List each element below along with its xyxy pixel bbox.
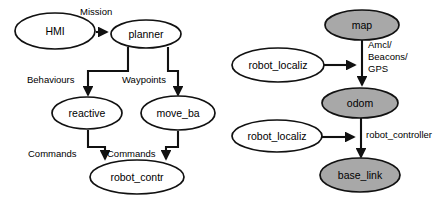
left-diagram: HMI planner reactive move_ba robot_contr… xyxy=(15,6,215,194)
node-move-ba-label: move_ba xyxy=(156,107,199,119)
node-odom[interactable]: odom xyxy=(322,88,398,118)
edge-label-amcl-beacons-gps: Amcl/ Beacons/ GPS xyxy=(368,39,408,74)
edge-label-robot-controller: robot_controller xyxy=(366,129,432,140)
edge-planner-to-reactive xyxy=(88,47,128,95)
node-planner-label: planner xyxy=(128,28,164,40)
left-diagram-edges xyxy=(88,32,178,159)
node-reactive-label: reactive xyxy=(69,107,106,119)
node-base-link[interactable]: base_link xyxy=(320,158,400,192)
node-hmi[interactable]: HMI xyxy=(15,13,95,49)
edge-label-waypoints: Waypoints xyxy=(122,74,166,85)
node-robot-contr[interactable]: robot_contr xyxy=(90,160,184,194)
node-planner[interactable]: planner xyxy=(111,20,181,48)
edge-planner-to-move-ba xyxy=(168,47,178,95)
node-robot-localiz-top[interactable]: robot_localiz xyxy=(232,48,324,82)
edge-label-amcl-line-1: Amcl/ xyxy=(368,39,392,50)
edge-label-amcl-line-2: Beacons/ xyxy=(368,51,408,62)
node-hmi-label: HMI xyxy=(45,25,64,37)
edge-label-commands-move-ba: Commands xyxy=(107,148,156,159)
node-robot-localiz-bottom[interactable]: robot_localiz xyxy=(232,120,322,152)
diagram-svg: HMI planner reactive move_ba robot_contr… xyxy=(0,0,444,209)
node-odom-label: odom xyxy=(347,97,374,109)
node-reactive[interactable]: reactive xyxy=(52,97,122,129)
edge-label-mission: Mission xyxy=(80,6,112,17)
right-diagram: map robot_localiz odom robot_localiz bas… xyxy=(232,10,432,192)
node-robot-contr-label: robot_contr xyxy=(110,171,164,183)
node-move-ba[interactable]: move_ba xyxy=(141,96,215,130)
edge-reactive-to-robot-contr xyxy=(88,130,105,159)
edge-move-ba-to-robot-contr xyxy=(166,131,178,159)
node-map[interactable]: map xyxy=(325,10,399,40)
diagram-canvas: HMI planner reactive move_ba robot_contr… xyxy=(0,0,444,209)
node-robot-localiz-top-label: robot_localiz xyxy=(249,59,308,71)
edge-label-amcl-line-3: GPS xyxy=(368,63,388,74)
node-base-link-label: base_link xyxy=(338,169,383,181)
edge-label-commands-reactive: Commands xyxy=(28,148,77,159)
edge-label-behaviours: Behaviours xyxy=(27,74,75,85)
node-robot-localiz-bottom-label: robot_localiz xyxy=(248,130,307,142)
node-map-label: map xyxy=(352,19,373,31)
